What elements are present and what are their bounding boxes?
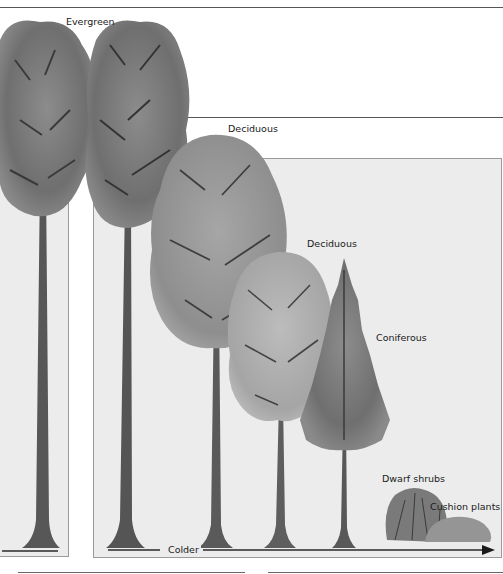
label-coniferous: Coniferous xyxy=(376,332,427,343)
label-dwarf-shrubs: Dwarf shrubs xyxy=(382,473,445,484)
label-deciduous-2: Deciduous xyxy=(307,238,357,249)
label-evergreen: Evergreen xyxy=(66,16,115,27)
evergreen-tree-1 xyxy=(0,20,94,548)
vegetation-illustration xyxy=(0,0,503,574)
label-cushion-plants: Cushion plants xyxy=(430,501,500,512)
label-deciduous-1: Deciduous xyxy=(228,123,278,134)
label-colder: Colder xyxy=(166,544,201,555)
